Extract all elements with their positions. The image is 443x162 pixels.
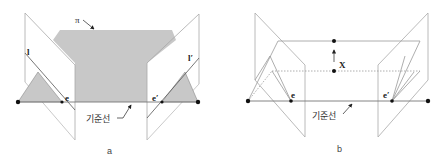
diagram-b: X e e′ 기준선 b <box>246 13 430 154</box>
epipolar-geometry-figure: π l l′ e e′ 기준선 a <box>0 0 443 162</box>
right-epipole-b <box>390 99 394 103</box>
baseline-arrow-b <box>343 104 352 114</box>
right-camera-center <box>196 100 200 104</box>
right-image-plane-b <box>378 13 428 137</box>
x-label: X <box>339 60 346 70</box>
right-epipole <box>160 100 163 103</box>
left-epipole <box>60 100 63 103</box>
left-camera-center-b <box>246 99 250 103</box>
e-prime-label-a: e′ <box>152 93 159 103</box>
diagram-a: π l l′ e e′ 기준선 a <box>16 13 200 156</box>
baseline-label-a: 기준선 <box>86 114 110 124</box>
pi-arrow <box>83 20 94 29</box>
left-camera-center <box>16 100 20 104</box>
pi-label: π <box>75 15 80 25</box>
right-camera-center-b <box>426 99 430 103</box>
baseline-arrow-a <box>117 105 131 118</box>
e-label-b: e <box>291 90 295 100</box>
point-x-lower <box>332 69 336 73</box>
left-image-plane-b <box>255 13 305 137</box>
caption-b: b <box>337 144 342 154</box>
right-triangle <box>162 72 198 102</box>
l-prime-label: l′ <box>188 53 193 63</box>
baseline-label-b: 기준선 <box>312 111 336 121</box>
epipolar-lines-left <box>255 56 291 101</box>
e-label-a: e <box>65 93 69 103</box>
e-prime-label-b: e′ <box>383 90 390 100</box>
point-x-upper <box>332 39 336 43</box>
caption-a: a <box>107 146 112 156</box>
